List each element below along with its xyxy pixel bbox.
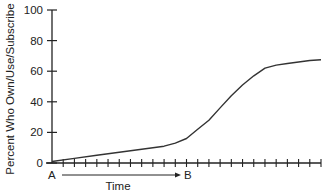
- time-arrow-head: [175, 173, 181, 178]
- y-tick-label: 60: [30, 65, 43, 77]
- adoption-curve: [52, 60, 321, 162]
- y-tick-label: 20: [30, 126, 43, 138]
- x-end-label: B: [184, 169, 192, 181]
- x-axis-label: Time: [105, 180, 130, 192]
- y-tick-label: 80: [30, 35, 43, 47]
- y-tick-label: 100: [24, 4, 43, 16]
- x-start-label: A: [48, 169, 56, 181]
- line-chart: Percent Who Own/Use/Subscribe 0204060801…: [0, 0, 332, 195]
- y-axis-label: Percent Who Own/Use/Subscribe: [4, 3, 16, 174]
- y-tick-label: 40: [30, 96, 43, 108]
- y-tick-label: 0: [37, 157, 43, 169]
